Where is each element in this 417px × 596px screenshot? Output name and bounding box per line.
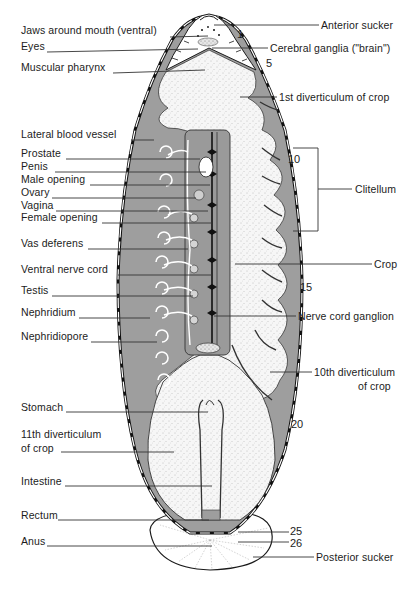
label-muscular-pharynx: Muscular pharynx <box>21 61 105 73</box>
label-nephridium: Nephridium <box>21 306 76 318</box>
label-eyes: Eyes <box>21 40 45 52</box>
penis <box>199 157 213 177</box>
label-stomach: Stomach <box>21 401 63 413</box>
segment-number-26: 26 <box>290 537 302 549</box>
ovary <box>194 190 204 200</box>
label-11th-diverticulum-line1: 11th diverticulum <box>21 428 101 440</box>
label-jaws: Jaws around mouth (ventral) <box>21 24 157 36</box>
segment-number-20: 20 <box>291 418 303 430</box>
reproductive-column <box>185 130 230 355</box>
segment-number-25: 25 <box>290 525 302 537</box>
label-vagina: Vagina <box>21 199 54 211</box>
label-anus: Anus <box>21 535 45 547</box>
label-10th-diverticulum-line2: of crop <box>358 380 391 392</box>
label-10th-diverticulum-line1: 10th diverticulum <box>314 366 395 378</box>
label-ovary: Ovary <box>21 186 50 198</box>
segment-number-15: 15 <box>300 281 312 293</box>
label-1st-diverticulum: 1st diverticulum of crop <box>279 91 389 103</box>
label-11th-diverticulum-line2: of crop <box>21 442 54 454</box>
label-crop: Crop <box>374 258 397 270</box>
label-prostate: Prostate <box>21 147 61 159</box>
label-rectum: Rectum <box>21 509 58 521</box>
segment-number-10: 10 <box>288 153 300 165</box>
segment-number-5: 5 <box>266 57 272 69</box>
clitellum-bracket <box>293 148 352 231</box>
label-intestine: Intestine <box>21 475 62 487</box>
label-penis: Penis <box>21 160 48 172</box>
label-ventral-nerve-cord: Ventral nerve cord <box>21 263 108 275</box>
label-female-opening: Female opening <box>21 211 98 223</box>
label-male-opening: Male opening <box>21 173 85 185</box>
label-cerebral-ganglia: Cerebral ganglia ("brain") <box>270 42 390 54</box>
label-nephridiopore: Nephridiopore <box>21 330 88 342</box>
rectum <box>202 510 220 520</box>
label-vas-deferens: Vas deferens <box>21 237 83 249</box>
label-nerve-cord-ganglion: Nerve cord ganglion <box>298 310 394 322</box>
segment-number-1: 1 <box>237 28 243 40</box>
label-testis: Testis <box>21 284 48 296</box>
label-clitellum: Clitellum <box>355 183 396 195</box>
label-anterior-sucker: Anterior sucker <box>321 19 393 31</box>
label-posterior-sucker: Posterior sucker <box>316 551 393 563</box>
leech-anatomy-diagram <box>0 0 417 596</box>
label-lateral-blood-vessel: Lateral blood vessel <box>21 128 116 140</box>
